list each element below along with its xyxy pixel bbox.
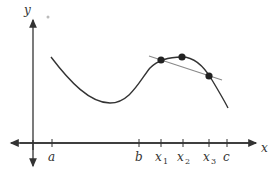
tick-label-b: b	[135, 150, 143, 164]
tick-label-x1: x	[155, 150, 162, 164]
tick-sub-x1: 1	[163, 157, 168, 166]
function-curve	[51, 57, 228, 108]
tick-label-a: a	[48, 150, 55, 164]
point-x3	[205, 72, 212, 79]
tick-label-c: c	[223, 150, 230, 164]
stray-mark	[47, 16, 50, 19]
point-x1	[157, 56, 164, 63]
y-axis-label: y	[23, 3, 31, 17]
tick-label-x2: x	[177, 150, 184, 164]
tick-sub-x2: 2	[185, 157, 190, 166]
point-x2	[178, 53, 185, 60]
tick-label-x3: x	[203, 150, 210, 164]
x-axis-label: x	[261, 141, 268, 155]
function-graph: x y a b x 1 x 2 x 3 c	[0, 0, 275, 175]
tick-sub-x3: 3	[211, 157, 216, 166]
